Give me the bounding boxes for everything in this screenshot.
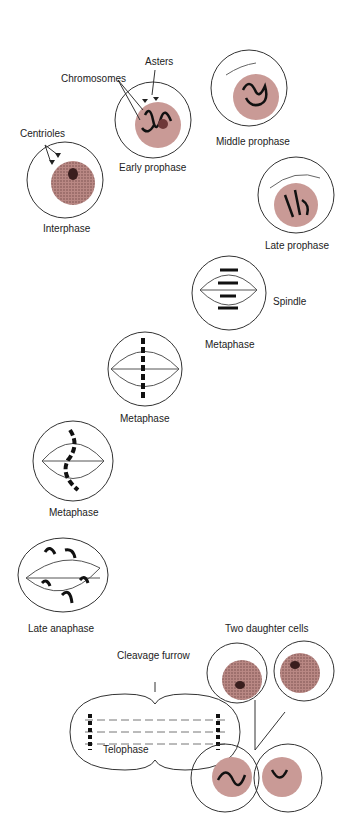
label-late-anaphase: Late anaphase [28, 623, 94, 634]
label-chromosomes: Chromosomes [61, 73, 126, 84]
label-centrioles: Centrioles [20, 128, 65, 139]
early-prophase-cell [115, 70, 191, 158]
label-metaphase-1: Metaphase [205, 339, 254, 350]
label-cleavage-furrow: Cleavage furrow [117, 650, 190, 661]
middle-prophase-cell [211, 50, 287, 126]
label-asters: Asters [145, 56, 173, 67]
label-telophase: Telophase [103, 744, 149, 755]
label-metaphase-3: Metaphase [49, 507, 98, 518]
label-spindle: Spindle [273, 296, 306, 307]
late-anaphase-cell [18, 538, 108, 612]
label-two-daughter-cells: Two daughter cells [225, 623, 308, 634]
metaphase-cell-3 [33, 421, 113, 501]
dividing-cell-pair [191, 700, 322, 812]
label-early-prophase: Early prophase [119, 162, 186, 173]
label-metaphase-2: Metaphase [120, 413, 169, 424]
metaphase-cell-1 [192, 256, 266, 330]
daughter-cell-right [274, 641, 334, 701]
metaphase-cell-2 [108, 332, 182, 406]
late-prophase-cell [258, 157, 334, 233]
telophase-cell [70, 682, 240, 770]
label-late-prophase: Late prophase [265, 240, 329, 251]
label-middle-prophase: Middle prophase [216, 136, 290, 147]
mitosis-diagram [0, 0, 342, 830]
daughter-cell-left [207, 643, 267, 703]
label-interphase: Interphase [43, 223, 90, 234]
interphase-cell [27, 142, 103, 218]
